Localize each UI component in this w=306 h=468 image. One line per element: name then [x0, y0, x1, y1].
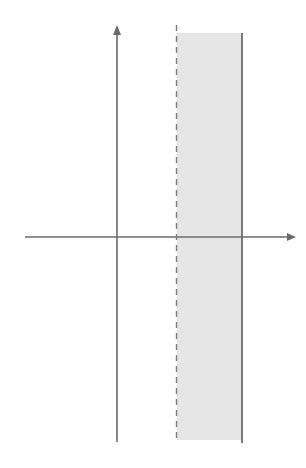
y-axis — [113, 25, 121, 442]
diagram-canvas — [0, 0, 306, 468]
y-axis-arrow-icon — [113, 25, 121, 35]
x-axis-arrow-icon — [287, 233, 296, 241]
x-axis — [25, 233, 296, 241]
